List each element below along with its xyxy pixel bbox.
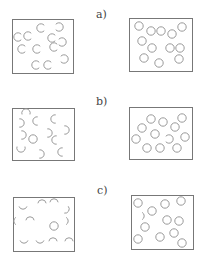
circle-partial [51,115,56,123]
circle-full [168,30,176,38]
circle-partial [21,131,26,139]
circle-full [178,23,186,31]
circle-full [156,144,164,152]
circle-partial [36,240,44,243]
circle-full [143,144,151,152]
circle-partial [166,135,173,143]
panel-c-left-box [14,198,75,252]
circle-full [175,217,183,225]
circle-full [161,200,169,208]
circle-partial [20,240,28,243]
circle-full [50,222,58,230]
circle-partial [56,23,63,31]
circle-partial [37,24,44,32]
circle-full [155,59,163,67]
circle-partial [33,45,40,53]
panel-b-left-box [13,109,75,161]
circle-full [134,199,142,207]
panel-a-left-box [13,20,74,74]
circle-partial [65,238,73,241]
circle-full [176,44,184,52]
circle-full [151,130,159,138]
diagram-canvas [0,0,198,259]
circle-full [177,197,185,205]
circle-partial [33,117,38,125]
circle-full [178,114,186,122]
circle-partial [44,61,51,69]
circle-partial [50,199,58,202]
circle-full [171,123,179,131]
circle-partial [66,217,68,224]
panel-c-right-box [132,196,194,250]
circle-full [29,135,37,143]
circle-full [135,22,143,30]
circle-partial [47,129,52,137]
panel-b-right-box [130,108,193,160]
circle-full [170,229,178,237]
circle-full [138,37,146,45]
circle-full [140,54,148,62]
circle-full [148,44,156,52]
panel-label-b: b) [96,96,107,107]
circle-full [147,27,155,35]
circle-full [159,118,167,126]
circle-partial [19,206,27,209]
circle-full [178,239,186,247]
circle-full [173,144,181,152]
circle-partial [38,200,46,203]
box-frame [13,20,74,74]
panel-label-a: a) [96,9,107,20]
circle-full [134,235,142,243]
circle-full [132,135,140,143]
circle-partial [52,136,57,144]
circle-partial [14,33,21,41]
circle-partial [59,38,66,46]
circle-partial [14,217,16,224]
circle-full [166,44,174,52]
circle-partial [24,32,31,40]
circle-full [138,124,146,132]
circle-partial [18,45,25,53]
circle-partial [58,148,63,156]
circle-partial [64,126,69,134]
circle-partial [142,212,144,219]
circle-full [156,233,164,241]
circle-partial [49,238,57,241]
circle-full [175,55,183,63]
circle-partial [22,109,30,115]
circle-partial [26,217,34,220]
circle-full [157,27,165,35]
panel-a-right-box [130,19,193,72]
circle-partial [61,55,68,63]
circle-full [181,133,189,141]
circle-partial [50,43,57,51]
circle-full [141,223,149,231]
circle-partial [48,34,55,42]
circle-full [163,216,171,224]
circle-full [147,115,155,123]
circle-full [148,207,156,215]
panel-label-c: c) [97,185,107,196]
circle-partial [19,119,24,127]
circle-partial [39,150,44,158]
circle-partial [64,206,69,213]
circle-partial [17,147,25,153]
circle-partial [32,61,39,69]
